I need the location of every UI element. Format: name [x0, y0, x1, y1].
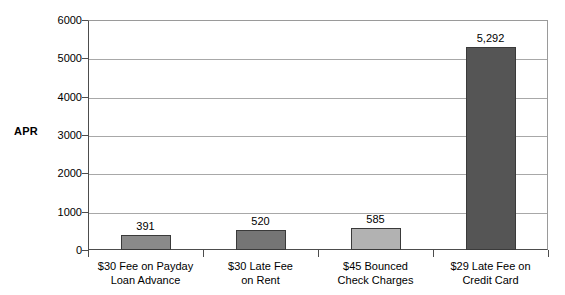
x-category-label-line: $45 Bounced: [318, 259, 433, 273]
y-axis-tick-labels: 0100020003000400050006000: [48, 0, 82, 295]
x-category-label: $30 Late Feeon Rent: [203, 259, 318, 287]
x-category-label: $30 Fee on PaydayLoan Advance: [88, 259, 203, 287]
y-tick-label: 2000: [48, 168, 82, 179]
x-axis-category-labels: $30 Fee on PaydayLoan Advance$30 Late Fe…: [88, 259, 548, 295]
x-tick-mark: [433, 250, 434, 257]
y-tick-label: 3000: [48, 130, 82, 141]
bar-value-label: 391: [136, 220, 154, 232]
y-tick-label: 0: [48, 245, 82, 256]
bar-slot: 520: [203, 20, 318, 250]
bar-slot: 391: [88, 20, 203, 250]
bar-value-label: 585: [366, 213, 384, 225]
bars-layer: 3915205855,292: [88, 20, 548, 250]
bar[interactable]: [466, 47, 516, 250]
x-category-label: $45 BouncedCheck Charges: [318, 259, 433, 287]
x-tick-mark: [318, 250, 319, 257]
bar-value-label: 520: [251, 215, 269, 227]
x-category-label-line: Loan Advance: [88, 273, 203, 287]
x-category-label-line: on Rent: [203, 273, 318, 287]
y-tick-label: 1000: [48, 207, 82, 218]
y-tick-label: 6000: [48, 15, 82, 26]
bar-value-label: 5,292: [477, 32, 505, 44]
y-tick-label: 5000: [48, 53, 82, 64]
bar[interactable]: [351, 228, 401, 250]
bar-slot: 585: [318, 20, 433, 250]
x-category-label-line: $29 Late Fee on: [433, 259, 548, 273]
x-category-label-line: $30 Late Fee: [203, 259, 318, 273]
x-tick-mark: [548, 250, 549, 257]
bar[interactable]: [236, 230, 286, 250]
x-category-label-line: Credit Card: [433, 273, 548, 287]
x-category-label-line: Check Charges: [318, 273, 433, 287]
bar-slot: 5,292: [433, 20, 548, 250]
x-tick-mark: [203, 250, 204, 257]
y-tick-label: 4000: [48, 92, 82, 103]
x-category-label-line: $30 Fee on Payday: [88, 259, 203, 273]
x-category-label: $29 Late Fee onCredit Card: [433, 259, 548, 287]
bar-chart: APR 0100020003000400050006000 3915205855…: [0, 0, 565, 295]
bar[interactable]: [121, 235, 171, 250]
x-tick-mark: [88, 250, 89, 257]
